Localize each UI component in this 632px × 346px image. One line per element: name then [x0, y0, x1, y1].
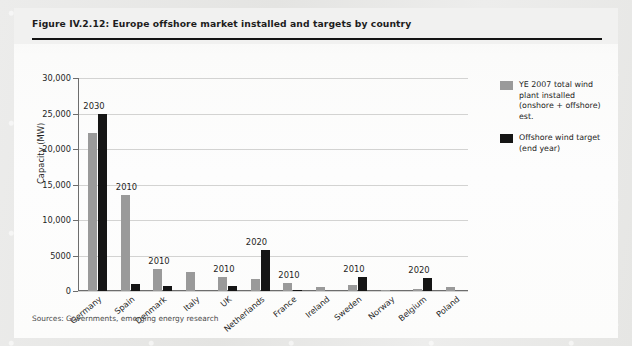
legend-swatch-icon-installed	[500, 81, 513, 90]
bar-group: 2020	[409, 78, 436, 291]
source-note: Sources: Governments, emerging energy re…	[32, 314, 218, 323]
bar-group: 2010	[214, 78, 241, 291]
bar-group	[377, 78, 404, 291]
bar-installed	[88, 133, 97, 291]
bar-target	[261, 250, 270, 291]
figure-title-band: Figure IV.2.12: Europe offshore market i…	[14, 8, 618, 44]
bar-value-label: 2010	[116, 182, 137, 192]
title-divider	[32, 38, 602, 40]
figure-title: Figure IV.2.12: Europe offshore market i…	[32, 18, 411, 29]
bar-target	[98, 114, 107, 292]
y-tick-label: 15,000	[42, 180, 71, 190]
plot-area: 0500010,00015,00020,00025,00030,000 2030…	[78, 78, 468, 291]
bar-groups: 20302010201020102020201020102020	[78, 78, 468, 291]
bar-installed	[316, 287, 325, 291]
bar-value-label: 2010	[213, 264, 234, 274]
bar-value-label: 2010	[343, 264, 364, 274]
bar-value-label: 2030	[83, 101, 104, 111]
bar-group: 2010	[344, 78, 371, 291]
y-tick-label: 5000	[50, 251, 71, 261]
bar-group: 2010	[117, 78, 144, 291]
y-tick-label: 30,000	[42, 73, 71, 83]
figure-card: Figure IV.2.12: Europe offshore market i…	[14, 8, 618, 338]
legend-label-installed: YE 2007 total wind plant installed (onsh…	[519, 80, 612, 122]
bar-group: 2020	[247, 78, 274, 291]
bar-installed	[251, 279, 260, 291]
legend-swatch-icon-target	[500, 134, 513, 143]
y-tick-mark	[73, 291, 78, 292]
y-tick-label: 20,000	[42, 144, 71, 154]
bar-installed	[413, 289, 422, 291]
bar-installed	[218, 277, 227, 291]
bar-group: 2030	[84, 78, 111, 291]
bar-group: 2010	[279, 78, 306, 291]
chart-legend: YE 2007 total wind plant installed (onsh…	[500, 80, 612, 165]
bar-installed	[446, 287, 455, 291]
bar-value-label: 2020	[246, 237, 267, 247]
legend-item-target: Offshore wind target (end year)	[500, 133, 612, 154]
bar-group	[442, 78, 469, 291]
bar-value-label: 2020	[408, 265, 429, 275]
bar-installed	[381, 290, 390, 291]
bar-value-label: 2010	[148, 256, 169, 266]
legend-label-target: Offshore wind target (end year)	[519, 133, 612, 154]
bar-group	[182, 78, 209, 291]
y-tick-label: 0	[66, 286, 71, 296]
y-tick-label: 25,000	[42, 109, 71, 119]
bar-installed	[153, 269, 162, 291]
bar-group	[312, 78, 339, 291]
y-tick-label: 10,000	[42, 215, 71, 225]
legend-item-installed: YE 2007 total wind plant installed (onsh…	[500, 80, 612, 122]
bar-group: 2010	[149, 78, 176, 291]
